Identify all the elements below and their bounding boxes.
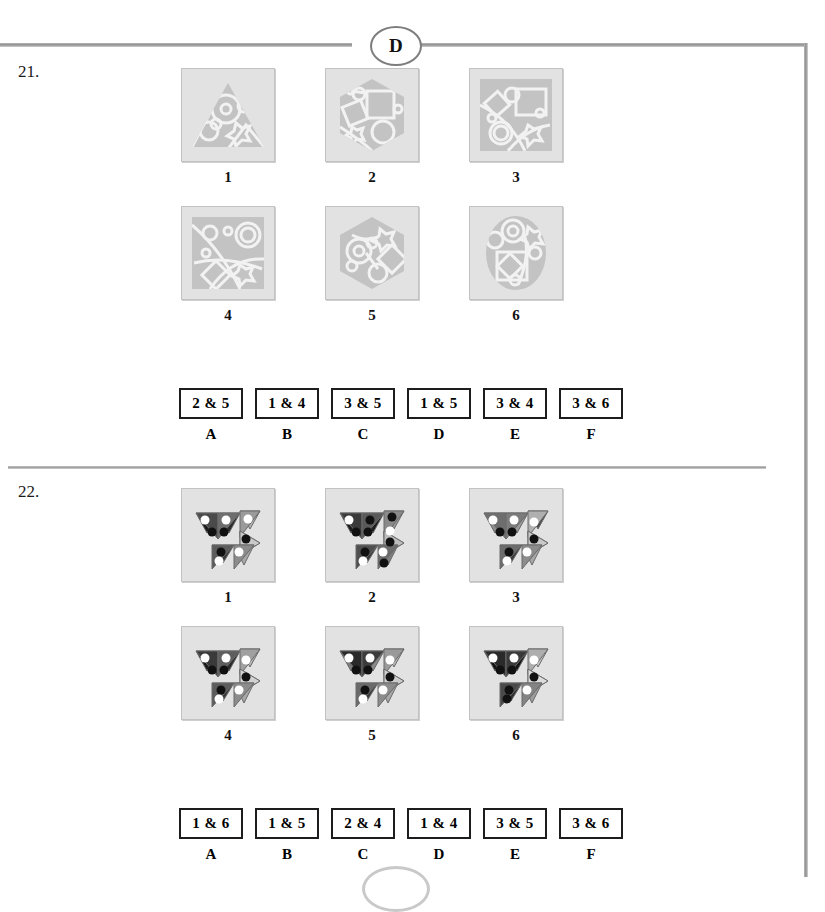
- answer-pair[interactable]: 1 & 4: [255, 388, 319, 419]
- figure-cell[interactable]: 2: [324, 488, 420, 606]
- figure-image-hexagon[interactable]: [325, 68, 419, 162]
- answer-pair[interactable]: 1 & 6: [179, 808, 243, 839]
- answer-letter: E: [510, 846, 520, 863]
- answer-letter: D: [434, 846, 445, 863]
- answer-pair[interactable]: 1 & 5: [407, 388, 471, 419]
- answer-letter: C: [358, 846, 369, 863]
- page-number-badge: [362, 866, 430, 912]
- answer-options-22: 1 & 6 A 1 & 5 B 2 & 4 C 1 & 4 D 3 & 5 E …: [180, 808, 622, 863]
- figure-grid-21: 1: [180, 68, 610, 344]
- figure-image-triangle[interactable]: [181, 68, 275, 162]
- figure-label: 2: [368, 589, 376, 606]
- answer-option[interactable]: 1 & 4 B: [256, 388, 318, 443]
- answer-pair[interactable]: 1 & 4: [407, 808, 471, 839]
- answer-pair[interactable]: 3 & 5: [483, 808, 547, 839]
- answer-option[interactable]: 1 & 5 B: [256, 808, 318, 863]
- figure-label: 3: [512, 589, 520, 606]
- figure-image-arrow-cluster[interactable]: [325, 626, 419, 720]
- answer-letter: B: [282, 846, 292, 863]
- section-badge: D: [370, 26, 422, 66]
- figure-row: 4: [180, 206, 610, 324]
- answer-option[interactable]: 1 & 5 D: [408, 388, 470, 443]
- figure-image-hexagon[interactable]: [325, 206, 419, 300]
- figure-label: 5: [368, 727, 376, 744]
- answer-letter: C: [358, 426, 369, 443]
- section-divider: [8, 466, 766, 469]
- figure-label: 3: [512, 169, 520, 186]
- answer-options-21: 2 & 5 A 1 & 4 B 3 & 5 C 1 & 5 D 3 & 4 E …: [180, 388, 622, 443]
- figure-label: 4: [224, 727, 232, 744]
- figure-label: 4: [224, 307, 232, 324]
- figure-cell[interactable]: 3: [468, 488, 564, 606]
- figure-cell[interactable]: 4: [180, 206, 276, 324]
- figure-image-square[interactable]: [181, 206, 275, 300]
- figure-image-square[interactable]: [469, 68, 563, 162]
- figure-image-arrow-cluster[interactable]: [181, 488, 275, 582]
- figure-image-arrow-cluster[interactable]: [325, 488, 419, 582]
- answer-pair[interactable]: 3 & 6: [559, 388, 623, 419]
- answer-option[interactable]: 3 & 5 C: [332, 388, 394, 443]
- answer-pair[interactable]: 2 & 5: [179, 388, 243, 419]
- figure-cell[interactable]: 2: [324, 68, 420, 186]
- figure-image-arrow-cluster[interactable]: [469, 488, 563, 582]
- figure-label: 2: [368, 169, 376, 186]
- figure-grid-22: 1: [180, 488, 610, 764]
- answer-letter: F: [586, 426, 595, 443]
- answer-pair[interactable]: 2 & 4: [331, 808, 395, 839]
- answer-pair[interactable]: 3 & 6: [559, 808, 623, 839]
- figure-row: 1: [180, 488, 610, 606]
- answer-pair[interactable]: 3 & 4: [483, 388, 547, 419]
- answer-option[interactable]: 1 & 4 D: [408, 808, 470, 863]
- answer-letter: A: [206, 846, 217, 863]
- answer-letter: A: [206, 426, 217, 443]
- answer-option[interactable]: 2 & 5 A: [180, 388, 242, 443]
- page-border-right: [804, 43, 808, 877]
- answer-option[interactable]: 3 & 6 F: [560, 808, 622, 863]
- figure-label: 1: [224, 589, 232, 606]
- figure-label: 5: [368, 307, 376, 324]
- answer-option[interactable]: 3 & 4 E: [484, 388, 546, 443]
- header-rule-left: [0, 43, 352, 47]
- figure-cell[interactable]: 5: [324, 626, 420, 744]
- figure-image-ellipse[interactable]: [469, 206, 563, 300]
- figure-cell[interactable]: 1: [180, 68, 276, 186]
- figure-cell[interactable]: 1: [180, 488, 276, 606]
- figure-cell[interactable]: 3: [468, 68, 564, 186]
- answer-letter: D: [434, 426, 445, 443]
- figure-image-arrow-cluster[interactable]: [181, 626, 275, 720]
- question-number: 22.: [18, 482, 39, 502]
- question-number: 21.: [18, 62, 39, 82]
- answer-letter: B: [282, 426, 292, 443]
- answer-option[interactable]: 1 & 6 A: [180, 808, 242, 863]
- figure-cell[interactable]: 4: [180, 626, 276, 744]
- answer-option[interactable]: 2 & 4 C: [332, 808, 394, 863]
- answer-pair[interactable]: 1 & 5: [255, 808, 319, 839]
- answer-letter: F: [586, 846, 595, 863]
- figure-label: 6: [512, 727, 520, 744]
- answer-letter: E: [510, 426, 520, 443]
- figure-cell[interactable]: 5: [324, 206, 420, 324]
- figure-label: 6: [512, 307, 520, 324]
- header-rule-right: [418, 43, 808, 47]
- answer-option[interactable]: 3 & 5 E: [484, 808, 546, 863]
- figure-image-arrow-cluster[interactable]: [469, 626, 563, 720]
- figure-label: 1: [224, 169, 232, 186]
- figure-row: 1: [180, 68, 610, 186]
- figure-row: 4: [180, 626, 610, 744]
- answer-pair[interactable]: 3 & 5: [331, 388, 395, 419]
- figure-cell[interactable]: 6: [468, 206, 564, 324]
- answer-option[interactable]: 3 & 6 F: [560, 388, 622, 443]
- figure-cell[interactable]: 6: [468, 626, 564, 744]
